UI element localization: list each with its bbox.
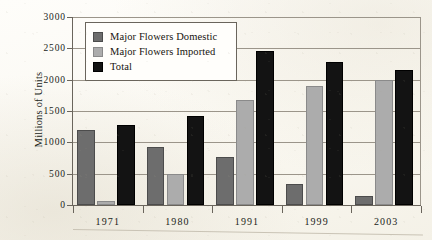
bar-domestic-1991: [216, 157, 234, 205]
x-tick-label-1999: 1999: [282, 216, 352, 227]
legend-item-domestic: Major Flowers Domestic: [93, 29, 228, 44]
y-tick-label: 1500: [10, 106, 66, 116]
x-tick-mark: [73, 206, 74, 213]
legend-swatch-imported-icon: [93, 47, 103, 57]
bar-total-1980: [187, 116, 205, 205]
y-tick-mark: [67, 80, 73, 81]
x-tick-mark: [143, 206, 144, 213]
x-tick-label-1971: 1971: [73, 216, 143, 227]
x-tick-mark: [212, 206, 213, 213]
legend-label: Major Flowers Domestic: [110, 31, 217, 42]
bar-imported-2003: [375, 80, 393, 205]
bar-domestic-1980: [147, 147, 165, 205]
x-tick-mark: [282, 206, 283, 213]
legend-label: Total: [110, 61, 132, 72]
y-tick-label: 0: [10, 200, 66, 210]
legend: Major Flowers DomesticMajor Flowers Impo…: [85, 22, 237, 81]
bar-total-1999: [326, 62, 344, 205]
bar-total-1971: [117, 125, 135, 205]
y-tick-mark: [67, 48, 73, 49]
y-tick-mark: [67, 111, 73, 112]
y-tick-mark: [67, 142, 73, 143]
x-tick-label-2003: 2003: [351, 216, 421, 227]
y-tick-label: 2500: [10, 43, 66, 53]
x-tick-mark: [351, 206, 352, 213]
bar-total-1991: [256, 51, 274, 205]
bar-domestic-1999: [286, 184, 304, 205]
x-tick-label-1991: 1991: [212, 216, 282, 227]
y-tick-label: 2000: [10, 75, 66, 85]
bar-group-1999: [286, 17, 344, 205]
legend-label: Major Flowers Imported: [110, 46, 215, 57]
bar-domestic-2003: [355, 196, 373, 205]
y-tick-mark: [67, 174, 73, 175]
bar-domestic-1971: [77, 130, 95, 205]
y-tick-label: 500: [10, 169, 66, 179]
y-tick-label: 3000: [10, 12, 66, 22]
bar-imported-1971: [97, 201, 115, 205]
bar-imported-1980: [167, 174, 185, 205]
legend-item-total: Total: [93, 59, 228, 74]
y-tick-mark: [67, 17, 73, 18]
bar-imported-1991: [236, 100, 254, 205]
bar-imported-1999: [306, 86, 324, 205]
bar-chart: Millions of Units 3000250020001500100050…: [0, 0, 432, 240]
legend-item-imported: Major Flowers Imported: [93, 44, 228, 59]
legend-swatch-domestic-icon: [93, 32, 103, 42]
bar-total-2003: [395, 70, 413, 205]
x-axis-skew-line: [73, 229, 423, 235]
x-tick-label-1980: 1980: [142, 216, 212, 227]
bar-group-2003: [355, 17, 413, 205]
y-tick-label: 1000: [10, 137, 66, 147]
x-tick-mark: [421, 206, 422, 213]
legend-swatch-total-icon: [93, 62, 103, 72]
gridline: [73, 205, 421, 206]
